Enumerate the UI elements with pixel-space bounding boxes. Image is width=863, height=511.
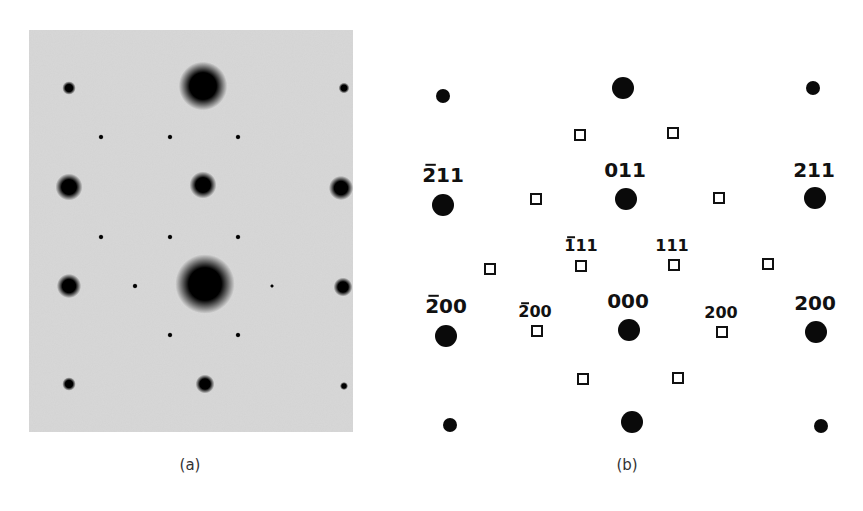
diffraction-spot bbox=[167, 332, 172, 337]
diffraction-spot bbox=[132, 283, 137, 288]
diffraction-spot bbox=[56, 174, 83, 201]
indexed-pattern-panel: 211011211200000200111111200200 bbox=[400, 0, 863, 460]
diffraction-spot bbox=[62, 377, 76, 391]
diffraction-spot bbox=[339, 83, 350, 94]
reflection-circle bbox=[804, 187, 826, 209]
reflection-circle bbox=[443, 418, 457, 432]
diffraction-spot bbox=[340, 382, 348, 390]
reflection-circle bbox=[612, 77, 634, 99]
reflection-square bbox=[532, 326, 542, 336]
miller-index-label: 200 bbox=[425, 294, 467, 318]
reflection-circle bbox=[435, 325, 457, 347]
reflection-circle bbox=[805, 321, 827, 343]
diffraction-spot bbox=[329, 176, 353, 200]
reflection-square bbox=[763, 259, 773, 269]
diffraction-spot bbox=[175, 254, 234, 313]
reflection-circle bbox=[432, 194, 454, 216]
reflection-circle bbox=[615, 188, 637, 210]
miller-index-label: 211 bbox=[793, 158, 835, 182]
diffraction-photo bbox=[29, 30, 353, 432]
reflection-circle bbox=[814, 419, 828, 433]
miller-index-label: 200 bbox=[518, 302, 551, 321]
reflection-square bbox=[576, 261, 586, 271]
miller-index-label: 111 bbox=[655, 236, 688, 255]
diffraction-spot bbox=[167, 134, 172, 139]
reflection-square bbox=[575, 130, 585, 140]
caption-a: (a) bbox=[160, 456, 220, 474]
miller-index-label: 011 bbox=[604, 158, 646, 182]
reflection-square bbox=[578, 374, 588, 384]
caption-b: (b) bbox=[597, 456, 657, 474]
diffraction-spot bbox=[235, 332, 240, 337]
miller-index-label: 211 bbox=[422, 163, 464, 187]
miller-index-label: 000 bbox=[607, 289, 649, 313]
diffraction-spot bbox=[270, 284, 274, 288]
reflection-circle bbox=[618, 319, 640, 341]
miller-index-label: 200 bbox=[704, 303, 737, 322]
miller-index-label: 111 bbox=[564, 236, 597, 255]
diffraction-spot bbox=[190, 172, 217, 199]
reflection-square bbox=[669, 260, 679, 270]
diffraction-spot bbox=[167, 234, 172, 239]
reflection-square bbox=[714, 193, 724, 203]
reflection-circle bbox=[621, 411, 643, 433]
diffraction-spot bbox=[196, 375, 215, 394]
reflection-square bbox=[673, 373, 683, 383]
diffraction-spot bbox=[98, 134, 103, 139]
miller-index-label: 200 bbox=[794, 291, 836, 315]
diffraction-spot bbox=[98, 234, 103, 239]
diffraction-spot bbox=[235, 234, 240, 239]
reflection-square bbox=[717, 327, 727, 337]
diffraction-spot bbox=[334, 278, 353, 297]
indexed-pattern: 211011211200000200111111200200 bbox=[400, 0, 863, 460]
diffraction-spot bbox=[179, 62, 228, 111]
reflection-circle bbox=[436, 89, 450, 103]
diffraction-spot bbox=[235, 134, 240, 139]
diffraction-spot bbox=[57, 274, 81, 298]
diffraction-spot bbox=[62, 81, 76, 95]
reflection-square bbox=[485, 264, 495, 274]
reflection-circle bbox=[806, 81, 820, 95]
reflection-square bbox=[668, 128, 678, 138]
diffraction-photo-panel bbox=[29, 30, 353, 432]
reflection-square bbox=[531, 194, 541, 204]
